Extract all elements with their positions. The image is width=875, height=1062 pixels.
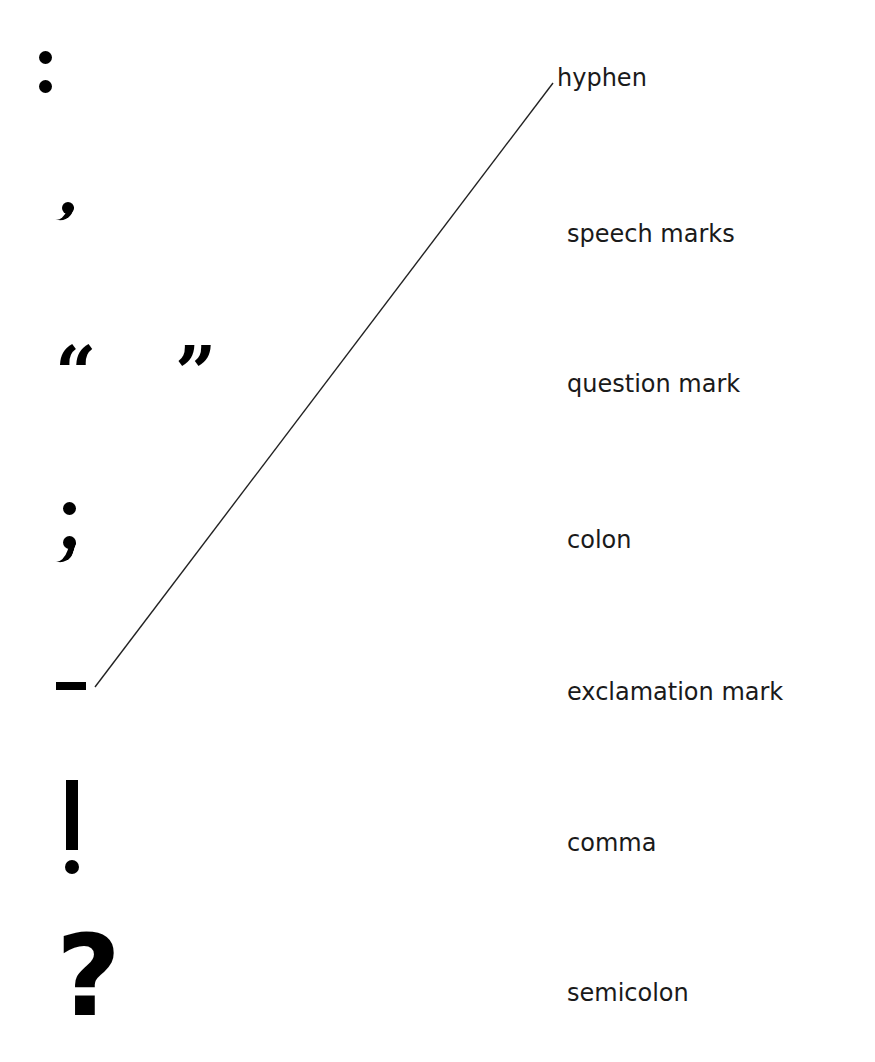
label-colon[interactable]: colon <box>567 528 631 552</box>
open-speech-mark: “ <box>55 337 96 409</box>
comma-tail <box>55 202 75 224</box>
label-semicolon[interactable]: semicolon <box>567 981 689 1005</box>
symbol-colon[interactable] <box>30 40 60 100</box>
symbol-speech-marks[interactable]: “ ” <box>55 345 225 390</box>
label-exclamation-mark[interactable]: exclamation mark <box>567 680 783 704</box>
symbol-question-mark[interactable]: ? <box>50 930 120 1030</box>
close-speech-mark: ” <box>175 337 216 409</box>
exclamation-dot <box>65 860 79 874</box>
symbol-semicolon[interactable] <box>55 500 85 575</box>
label-question-mark[interactable]: question mark <box>567 372 740 396</box>
symbol-exclamation-mark[interactable] <box>60 780 90 880</box>
symbol-comma[interactable] <box>55 200 85 240</box>
match-connector-line <box>0 0 875 1062</box>
question-glyph: ? <box>56 920 121 1032</box>
colon-bottom-dot <box>39 80 52 93</box>
exclamation-bar <box>66 780 78 850</box>
label-speech-marks[interactable]: speech marks <box>567 222 735 246</box>
colon-top-dot <box>39 51 52 64</box>
hyphen-bar <box>56 682 86 690</box>
label-hyphen[interactable]: hyphen <box>557 66 647 90</box>
label-comma[interactable]: comma <box>567 831 656 855</box>
semicolon-dot <box>63 502 76 515</box>
symbol-hyphen[interactable] <box>55 680 87 692</box>
semicolon-tail <box>55 538 77 565</box>
